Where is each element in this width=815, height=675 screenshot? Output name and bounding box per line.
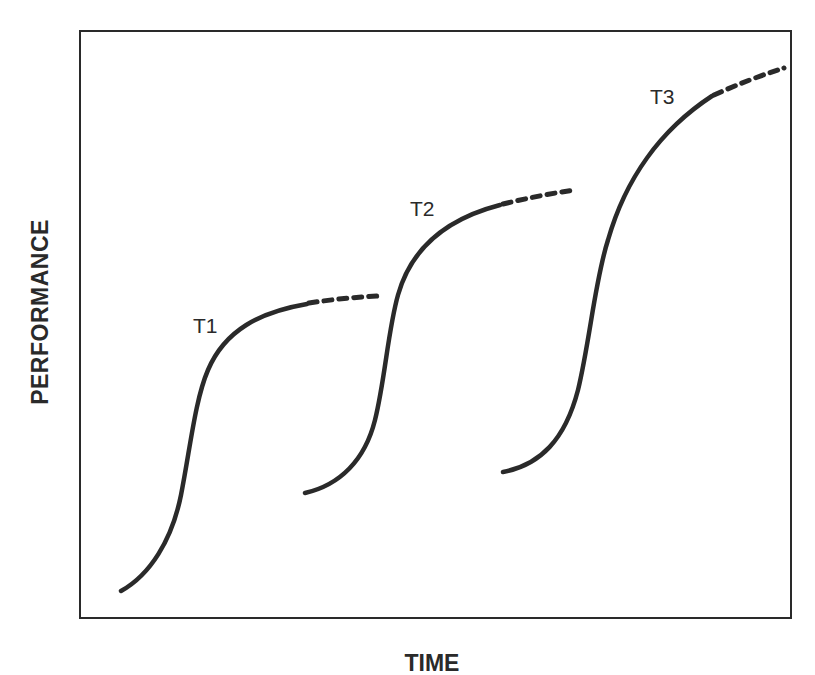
t3-dashed-extension <box>714 68 784 95</box>
series-t2: T2 <box>305 190 576 493</box>
series-t3: T3 <box>503 68 784 472</box>
t3-solid-curve <box>503 96 712 472</box>
t2-solid-curve <box>305 205 500 493</box>
t2-dashed-extension <box>503 190 576 204</box>
t2-label: T2 <box>410 197 435 220</box>
t1-solid-curve <box>121 304 307 591</box>
series-t1: T1 <box>121 296 379 591</box>
t1-label: T1 <box>193 314 218 337</box>
t1-dashed-extension <box>309 296 379 303</box>
t3-label: T3 <box>650 85 675 108</box>
